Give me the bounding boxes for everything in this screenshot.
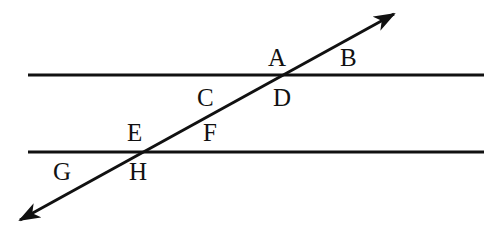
transversal-line [20, 14, 394, 220]
label-c: C [197, 84, 214, 111]
label-d: D [273, 84, 291, 111]
label-h: H [129, 158, 147, 185]
label-e: E [127, 119, 142, 146]
label-b: B [340, 44, 357, 71]
label-f: F [203, 119, 217, 146]
label-g: G [53, 158, 71, 185]
diagram-canvas: A B C D E F G H [0, 0, 486, 230]
label-a: A [268, 44, 286, 71]
